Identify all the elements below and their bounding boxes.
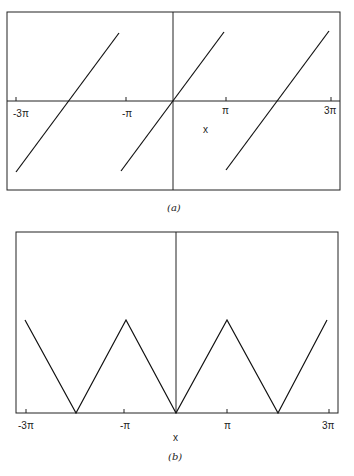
panel-a-tick-label: 3π [324, 105, 337, 116]
panel-b-tick-label: -π [120, 420, 130, 431]
panel-b-frame [16, 232, 338, 413]
panel-a-tick-label: π [222, 105, 229, 116]
panel-a-x-label: x [203, 124, 208, 135]
sawtooth-segment-1 [16, 33, 119, 172]
figure: -3π -π π 3π x (a) -3π -π π 3π x (b) [0, 0, 354, 476]
panel-a-tick-label: -π [122, 108, 132, 119]
panel-b-tick-label: -3π [18, 420, 34, 431]
panel-b-tick-label: 3π [322, 420, 335, 431]
panel-a-tick-label: -3π [13, 108, 29, 119]
panel-b-caption: (b) [168, 451, 182, 462]
panel-b: -3π -π π 3π x (b) [16, 232, 338, 462]
panel-a: -3π -π π 3π x (a) [7, 12, 340, 213]
panel-b-x-label: x [173, 432, 178, 443]
panel-a-caption: (a) [167, 202, 181, 213]
panel-b-tick-label: π [224, 420, 231, 431]
